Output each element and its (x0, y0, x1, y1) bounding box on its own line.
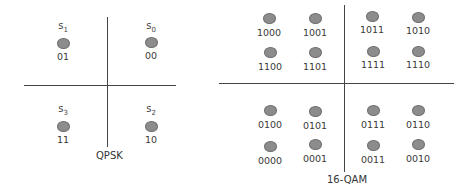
qpsk-point-00 (145, 37, 158, 48)
qam16-point-1100 (264, 47, 277, 58)
qam16-point-1101 (309, 47, 322, 58)
qam16-label-1111: 1111 (353, 59, 393, 70)
qam16-label-0010: 0010 (398, 153, 438, 164)
qpsk-title: QPSK (96, 150, 123, 161)
qam16-label-1101: 1101 (295, 61, 335, 72)
qam16-label-1000: 1000 (249, 27, 289, 38)
qpsk-point-11 (57, 121, 70, 132)
qpsk-point-10 (145, 121, 158, 132)
qam16-label-1001: 1001 (295, 27, 335, 38)
qam16-label-1100: 1100 (250, 61, 290, 72)
qam16-label-0110: 0110 (398, 119, 438, 130)
qam16-point-1000 (263, 13, 276, 24)
qam16-label-0111: 0111 (353, 119, 393, 130)
qam16-label-1010: 1010 (398, 25, 438, 36)
qam16-point-0010 (412, 139, 425, 150)
qam16-label-0100: 0100 (250, 119, 290, 130)
qam16-point-0110 (412, 105, 425, 116)
qam16-point-1011 (366, 11, 379, 22)
qam16-label-1110: 1110 (398, 59, 438, 70)
qam16-label-0011: 0011 (353, 154, 393, 165)
qam16-point-0000 (264, 141, 277, 152)
qam16-point-0101 (309, 106, 322, 117)
qpsk-symbol-s2: s2 (141, 103, 161, 117)
qam16-point-1111 (367, 46, 380, 57)
qpsk-symbol-s1: s1 (53, 20, 73, 34)
qam16-label-0000: 0000 (250, 155, 290, 166)
qam16-point-0111 (367, 105, 380, 116)
qam16-horizontal-axis (219, 83, 454, 84)
qpsk-vertical-axis (107, 17, 108, 147)
qpsk-symbol-s3: s3 (53, 103, 73, 117)
qpsk-label-11: 11 (43, 134, 83, 145)
qam16-title: 16-QAM (327, 174, 367, 185)
qam16-point-1110 (412, 46, 425, 57)
qam16-label-0001: 0001 (295, 153, 335, 164)
qam16-label-1011: 1011 (352, 24, 392, 35)
qam16-point-0001 (309, 139, 322, 150)
qpsk-point-01 (57, 38, 70, 49)
qam16-point-0100 (264, 105, 277, 116)
qpsk-label-00: 00 (131, 50, 171, 61)
qam16-vertical-axis (344, 5, 345, 172)
qpsk-symbol-s0: s0 (141, 20, 161, 34)
qam16-point-0011 (367, 140, 380, 151)
qpsk-label-01: 01 (43, 51, 83, 62)
qpsk-label-10: 10 (131, 134, 171, 145)
qam16-point-1001 (309, 13, 322, 24)
qpsk-horizontal-axis (24, 85, 176, 86)
qam16-label-0101: 0101 (295, 120, 335, 131)
qam16-point-1010 (412, 12, 425, 23)
